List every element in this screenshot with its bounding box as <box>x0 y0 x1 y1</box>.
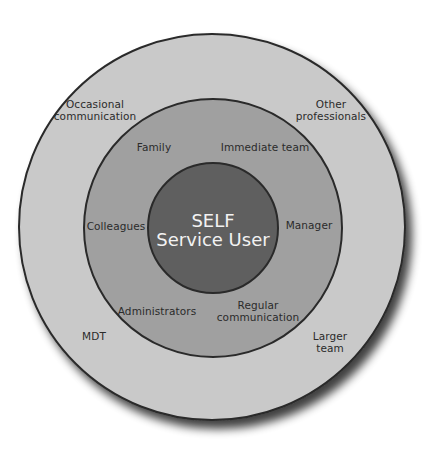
center-label-service-user: Service User <box>156 230 269 249</box>
label-occasional: Occasional <box>66 98 124 110</box>
label-professionals: professionals <box>296 110 366 122</box>
label-immediate-team: Immediate team <box>221 141 310 153</box>
center-label: SELF Service User <box>156 211 269 249</box>
label-manager: Manager <box>286 219 333 231</box>
label-other: Other <box>316 98 346 110</box>
label-mdt: MDT <box>82 330 106 342</box>
concentric-relationship-diagram: SELF Service User Family Immediate team … <box>0 0 428 455</box>
label-administrators: Administrators <box>118 305 196 317</box>
label-team: team <box>316 342 344 354</box>
label-larger: Larger <box>313 330 347 342</box>
label-communication: communication <box>217 311 300 323</box>
label-family: Family <box>137 141 171 153</box>
label-colleagues: Colleagues <box>87 220 146 232</box>
center-label-self: SELF <box>156 211 269 230</box>
label-occasional-communication: communication <box>54 110 137 122</box>
label-regular: Regular <box>238 299 279 311</box>
